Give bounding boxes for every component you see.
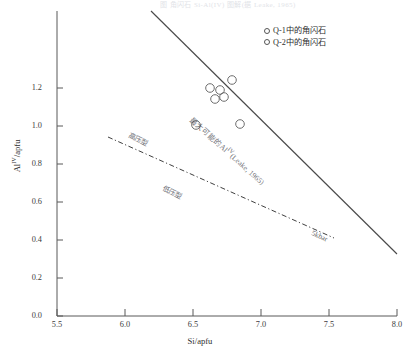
x-tick-label: 7.5 [316, 320, 342, 329]
open-circle-icon [264, 39, 270, 45]
open-circle-icon [264, 28, 270, 34]
data-point [220, 93, 229, 102]
y-tick-label: 0.2 [16, 273, 42, 282]
y-axis-title-superscript: IV [10, 157, 17, 164]
data-point [206, 84, 215, 93]
y-tick-label: 0.0 [16, 311, 42, 320]
y-axis-title-base: Al [12, 164, 22, 173]
legend-label: Q-1中的角闪石 [273, 25, 326, 37]
x-tick-label: 6.0 [112, 320, 138, 329]
x-axis-title: Si/apfu [150, 336, 250, 346]
x-tick-label: 7.0 [248, 320, 274, 329]
y-tick-label: 0.4 [16, 235, 42, 244]
y-tick-label: 0.6 [16, 197, 42, 206]
data-point [236, 120, 245, 129]
legend: Q-1中的角闪石 Q-2中的角闪石 [264, 25, 326, 48]
data-point [211, 95, 220, 104]
x-tick-label: 6.5 [180, 320, 206, 329]
x-tick-label: 5.5 [44, 320, 70, 329]
data-point [228, 76, 237, 85]
x-tick-label: 8.0 [384, 320, 407, 329]
legend-item-q1: Q-1中的角闪石 [264, 25, 326, 37]
x-axis-ticks [57, 309, 397, 316]
legend-item-q2: Q-2中的角闪石 [264, 37, 326, 49]
y-axis-title: AlIV/apfu [10, 126, 22, 186]
axes [57, 11, 397, 316]
y-axis-title-tail: /apfu [12, 140, 22, 158]
legend-label: Q-2中的角闪石 [273, 37, 326, 49]
y-tick-label: 1.2 [16, 83, 42, 92]
y-axis-ticks [57, 88, 63, 316]
